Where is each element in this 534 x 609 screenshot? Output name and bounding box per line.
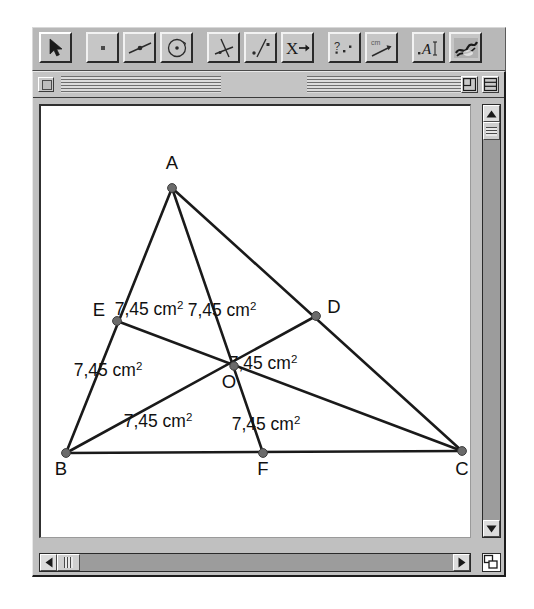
geometry-canvas[interactable]: 7,45 cm27,45 cm27,45 cm27,45 cm27,45 cm2… — [39, 104, 471, 538]
area-BOF[interactable]: 7,45 cm2 — [124, 411, 193, 431]
point-icon — [92, 37, 114, 59]
ruler-cm-icon: cm — [369, 36, 395, 60]
scroll-thumb-grip-icon — [486, 127, 497, 136]
area-AEO[interactable]: 7,45 cm2 — [115, 299, 184, 319]
point-B[interactable] — [62, 449, 71, 458]
perpendicular-line-icon — [212, 36, 236, 60]
grow-box-icon[interactable] — [482, 553, 501, 572]
tool-perpendicular[interactable] — [207, 32, 240, 63]
zoom-box-icon[interactable] — [461, 76, 478, 93]
horizontal-scrollbar[interactable] — [39, 553, 471, 572]
tool-appearance[interactable] — [449, 32, 482, 63]
tool-reflect[interactable] — [244, 32, 277, 63]
svg-text:A: A — [421, 41, 432, 57]
collapse-box-icon[interactable] — [482, 76, 499, 93]
window-titlebar — [33, 72, 504, 98]
x-arrow-icon: X — [285, 37, 311, 59]
application-root: X ? — [0, 0, 534, 609]
toolbar-groups: X ? — [39, 32, 482, 63]
svg-text:?: ? — [334, 40, 340, 52]
close-box-icon[interactable] — [38, 77, 54, 92]
point-label-B[interactable]: B — [55, 458, 67, 479]
tool-group-measure: ? cm — [328, 32, 398, 63]
tool-group-selection — [39, 32, 72, 63]
titlebar-stripes-right — [307, 76, 467, 93]
scroll-up-arrow[interactable] — [483, 105, 500, 122]
tool-pointer[interactable] — [39, 32, 72, 63]
area-BEO[interactable]: 7,45 cm2 — [74, 360, 143, 380]
scroll-left-arrow[interactable] — [40, 554, 57, 571]
toolbar: X ? — [32, 27, 506, 71]
tool-macro[interactable]: X — [281, 32, 314, 63]
vertical-scrollbar[interactable] — [482, 104, 501, 538]
point-A[interactable] — [168, 184, 177, 193]
area-AOD[interactable]: 7,45 cm2 — [188, 300, 257, 320]
point-label-F[interactable]: F — [257, 458, 268, 479]
point-label-A[interactable]: A — [166, 152, 179, 173]
tool-line[interactable] — [123, 32, 156, 63]
tool-point[interactable] — [86, 32, 119, 63]
text-label-icon: A — [416, 37, 442, 59]
circle-icon — [165, 36, 189, 60]
point-label-E[interactable]: E — [93, 299, 105, 320]
question-dots-icon: ? — [332, 37, 358, 59]
geometry-figure: 7,45 cm27,45 cm27,45 cm27,45 cm27,45 cm2… — [41, 106, 471, 538]
reflect-point-line-icon — [249, 36, 273, 60]
point-O[interactable] — [230, 362, 238, 370]
area-ODC[interactable]: 7,45 cm2 — [229, 353, 298, 373]
point-D[interactable] — [312, 312, 321, 321]
svg-text:X: X — [286, 39, 298, 58]
document-window: 7,45 cm27,45 cm27,45 cm27,45 cm27,45 cm2… — [32, 71, 506, 577]
point-label-O[interactable]: O — [222, 371, 236, 392]
vertical-scroll-thumb[interactable] — [483, 122, 500, 140]
titlebar-stripes-left — [61, 76, 221, 93]
scroll-down-arrow[interactable] — [483, 520, 500, 537]
point-F[interactable] — [259, 449, 268, 458]
arrow-pointer-icon — [46, 37, 66, 59]
point-label-D[interactable]: D — [327, 296, 340, 317]
line-through-point-icon — [127, 37, 153, 59]
svg-text:cm: cm — [371, 39, 381, 46]
tool-group-transform: X — [207, 32, 314, 63]
point-C[interactable] — [458, 447, 467, 456]
tool-group-construction — [86, 32, 193, 63]
area-OFC[interactable]: 7,45 cm2 — [232, 414, 301, 434]
tool-check-property[interactable]: ? — [328, 32, 361, 63]
tool-measure[interactable]: cm — [365, 32, 398, 63]
point-E[interactable] — [113, 317, 122, 326]
paint-scribble-icon — [453, 36, 479, 60]
tool-circle[interactable] — [160, 32, 193, 63]
tool-label[interactable]: A — [412, 32, 445, 63]
scroll-thumb-grip-icon — [64, 557, 73, 568]
scroll-right-arrow[interactable] — [453, 554, 470, 571]
tool-group-display: A — [412, 32, 482, 63]
horizontal-scroll-thumb[interactable] — [57, 554, 80, 571]
point-label-C[interactable]: C — [455, 458, 468, 479]
